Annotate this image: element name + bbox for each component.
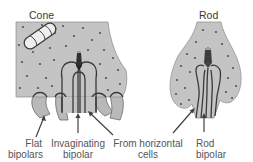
arrow-horizontal-left bbox=[90, 113, 113, 135]
label-flat-bipolars-1: Flat bbox=[25, 138, 42, 149]
cone-pedicle: Cone bbox=[16, 9, 127, 120]
label-horizontal-cells-2: cells bbox=[138, 149, 158, 160]
label-flat-bipolars-2: bipolars bbox=[8, 149, 43, 160]
rod-spherule: Rod bbox=[170, 9, 241, 118]
flat-bipolar-dendrite-right bbox=[110, 96, 123, 120]
rod-title: Rod bbox=[199, 9, 218, 21]
cone-title: Cone bbox=[29, 9, 54, 21]
arrow-horizontal-right bbox=[173, 110, 193, 133]
label-invaginating-bipolar-2: bipolar bbox=[63, 149, 94, 160]
label-rod-bipolar-2: bipolar bbox=[196, 149, 227, 160]
label-rod-bipolar-1: Rod bbox=[196, 138, 214, 149]
horizontal-dendrite-right bbox=[92, 96, 113, 116]
label-horizontal-cells-1: From horizontal bbox=[113, 138, 182, 149]
flat-bipolar-dendrite-left bbox=[32, 96, 50, 118]
photoreceptor-synapse-diagram: Cone bbox=[0, 0, 253, 162]
label-invaginating-bipolar-1: Invaginating bbox=[51, 138, 105, 149]
labels: Flat bipolars Invaginating bipolar From … bbox=[8, 138, 227, 160]
